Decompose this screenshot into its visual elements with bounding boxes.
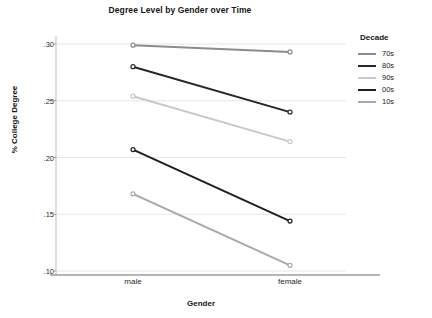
data-point-marker (131, 148, 135, 152)
data-point-marker (288, 50, 292, 54)
series-line (133, 194, 290, 266)
legend-swatch-icon (358, 65, 376, 67)
legend-item-label: 00s (382, 84, 394, 95)
legend-title: Decade (358, 33, 430, 42)
legend-item-label: 90s (382, 72, 394, 83)
legend-swatch-icon (358, 77, 376, 79)
data-point-marker (288, 110, 292, 114)
data-point-marker (288, 263, 292, 267)
legend-item-label: 80s (382, 60, 394, 71)
data-point-marker (288, 140, 292, 144)
x-axis-tick-male: male (98, 277, 168, 286)
data-point-marker (131, 94, 135, 98)
legend-item-90s[interactable]: 90s (358, 72, 430, 83)
x-axis-title: Gender (56, 299, 346, 308)
legend-swatch-icon (358, 89, 376, 91)
legend-item-label: 70s (382, 48, 394, 59)
legend-item-10s[interactable]: 10s (358, 96, 430, 107)
legend-items: 70s80s90s00s10s (358, 48, 430, 107)
legend-item-label: 10s (382, 96, 394, 107)
legend-item-80s[interactable]: 80s (358, 60, 430, 71)
chart-figure: Degree Level by Gender over Time % Colle… (0, 0, 432, 318)
series-line (133, 45, 290, 52)
legend-item-70s[interactable]: 70s (358, 48, 430, 59)
legend-swatch-icon (358, 53, 376, 55)
legend: Decade 70s80s90s00s10s (358, 33, 430, 108)
x-axis-tick-female: female (255, 277, 325, 286)
data-point-marker (288, 219, 292, 223)
data-point-marker (131, 65, 135, 69)
legend-swatch-icon (358, 101, 376, 103)
legend-item-00s[interactable]: 00s (358, 84, 430, 95)
series-line (133, 96, 290, 141)
data-point-marker (131, 192, 135, 196)
data-point-marker (131, 43, 135, 47)
series-line (133, 150, 290, 222)
series-line (133, 67, 290, 112)
